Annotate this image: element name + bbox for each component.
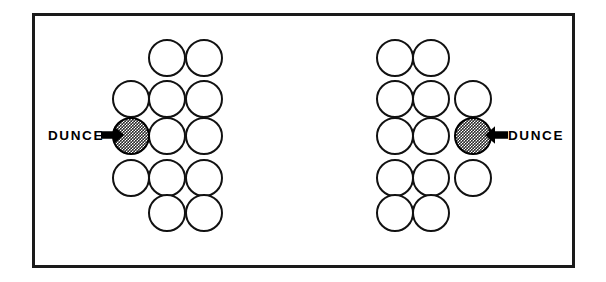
- dunce-label-right: DUNCE: [508, 129, 564, 143]
- circle-right-c1-r4: [376, 159, 414, 197]
- circle-left-c2-r4: [148, 159, 186, 197]
- circle-left-c1-r2: [112, 80, 150, 118]
- circle-right-c3-r4: [454, 159, 492, 197]
- circle-left-c2-r3: [148, 117, 186, 155]
- circle-right-c1-r1: [376, 39, 414, 77]
- circle-left-c2-r5: [148, 194, 186, 232]
- circle-right-c2-r5: [412, 194, 450, 232]
- circle-left-c3-r2: [185, 80, 223, 118]
- circle-left-c3-r4: [185, 159, 223, 197]
- circle-left-c3-r3: [185, 117, 223, 155]
- circle-left-c3-r1: [185, 39, 223, 77]
- circle-right-c2-r4: [412, 159, 450, 197]
- arrow-right-icon: [101, 124, 125, 146]
- circle-left-c3-r5: [185, 194, 223, 232]
- arrow-left-icon: [484, 124, 508, 146]
- diagram-frame: DUNCE: [32, 13, 575, 268]
- circle-left-c2-r1: [148, 39, 186, 77]
- circle-right-c1-r2: [376, 80, 414, 118]
- dunce-label-left: DUNCE: [48, 129, 104, 143]
- diagram-canvas: DUNCE: [0, 0, 606, 282]
- circle-right-c2-r1: [412, 39, 450, 77]
- circle-left-c1-r4: [112, 159, 150, 197]
- circle-right-c2-r3: [412, 117, 450, 155]
- circle-right-c1-r3: [376, 117, 414, 155]
- circle-right-c2-r2: [412, 80, 450, 118]
- circle-right-c1-r5: [376, 194, 414, 232]
- circle-left-c2-r2: [148, 80, 186, 118]
- circle-right-c3-r2: [454, 80, 492, 118]
